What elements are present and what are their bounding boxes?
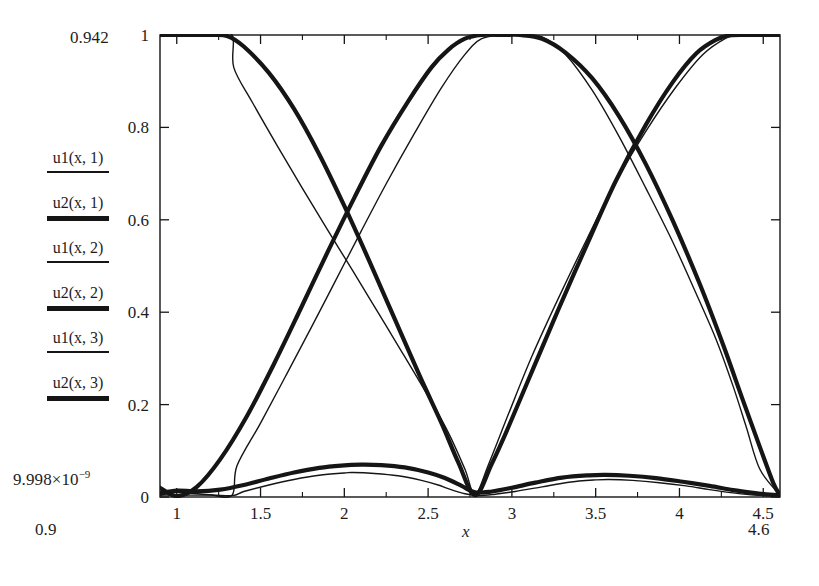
x-tick-label: 4: [675, 504, 684, 523]
x-tick-label: 3.5: [585, 504, 606, 523]
x-tick-label: 2: [340, 504, 349, 523]
data-series: [160, 33, 780, 498]
y-tick-label: 1: [141, 26, 150, 45]
x-tick-label: 1: [173, 504, 182, 523]
plot-area: 11.522.533.544.500.20.40.60.81: [0, 0, 819, 586]
x-tick-label: 2.5: [417, 504, 438, 523]
figure-container: 0.942 9.998×10−9 0.9 4.6 x u1(x, 1) u2(x…: [0, 0, 819, 586]
y-tick-label: 0: [141, 488, 150, 507]
y-tick-label: 0.6: [128, 211, 149, 230]
x-tick-label: 3: [508, 504, 517, 523]
y-tick-label: 0.2: [128, 396, 149, 415]
y-tick-label: 0.4: [128, 303, 150, 322]
series-line-6: [160, 465, 780, 496]
x-tick-label: 4.5: [753, 504, 774, 523]
series-line-1: [160, 33, 780, 495]
y-tick-label: 0.8: [128, 118, 149, 137]
x-tick-label: 1.5: [250, 504, 271, 523]
